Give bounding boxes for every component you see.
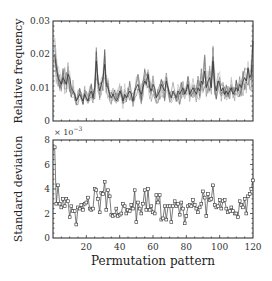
square-marker (57, 184, 60, 187)
square-marker (217, 205, 220, 208)
square-marker (237, 216, 240, 219)
square-marker (198, 206, 201, 209)
square-marker (132, 207, 135, 210)
square-marker (145, 208, 148, 211)
top-panel-relative-frequency: 00.010.020.03 (30, 16, 253, 126)
square-marker (235, 212, 238, 215)
plot-frame (53, 21, 253, 121)
square-marker (68, 216, 71, 219)
square-marker (78, 207, 81, 210)
square-marker (203, 196, 206, 199)
square-marker (195, 207, 198, 210)
square-marker (228, 210, 231, 213)
x-tick-label: 80 (181, 242, 193, 252)
square-marker (245, 212, 248, 215)
chart-figure: 00.010.020.03 0246820406080100120 Relati… (0, 0, 272, 281)
square-marker (185, 215, 188, 218)
square-marker (170, 221, 173, 224)
square-marker (135, 221, 138, 224)
square-marker (168, 205, 171, 208)
square-marker (182, 207, 185, 210)
x-tick-label: 120 (244, 242, 261, 252)
square-marker (123, 205, 126, 208)
square-marker (207, 193, 210, 196)
y-tick-label: 6 (44, 160, 50, 170)
square-marker (158, 194, 161, 197)
square-marker (115, 207, 118, 210)
square-marker (108, 195, 111, 198)
square-marker (230, 206, 233, 209)
square-marker (212, 184, 215, 187)
y-tick-label: 0.03 (30, 16, 50, 26)
square-marker (183, 222, 186, 225)
square-marker (178, 213, 181, 216)
square-marker (192, 199, 195, 202)
square-marker (193, 204, 196, 207)
square-marker (248, 193, 251, 196)
square-marker (243, 197, 246, 200)
bottom-y-axis-title: Standard deviation (12, 136, 25, 242)
square-marker (252, 179, 255, 182)
square-marker (147, 188, 150, 191)
square-marker (225, 207, 228, 210)
square-marker (120, 212, 123, 215)
square-marker (107, 189, 110, 192)
square-marker (60, 206, 63, 209)
square-marker (163, 205, 166, 208)
square-marker (70, 205, 73, 208)
square-marker (133, 189, 136, 192)
y-tick-label: 4 (44, 184, 50, 194)
square-marker (223, 199, 226, 202)
bottom-panel-standard-deviation: 0246820406080100120 (44, 135, 262, 252)
square-marker (80, 204, 83, 207)
square-marker (157, 201, 160, 204)
top-y-axis-title: Relative frequency (12, 18, 25, 124)
square-marker (220, 207, 223, 210)
y-tick-label: 0 (44, 116, 50, 126)
square-marker (95, 189, 98, 192)
square-marker (98, 211, 101, 214)
x-tick-label: 20 (81, 242, 93, 252)
x-tick-label: 60 (147, 242, 159, 252)
square-marker (73, 210, 76, 213)
square-marker (105, 208, 108, 211)
square-marker (190, 205, 193, 208)
square-marker (62, 197, 65, 200)
y-tick-label: 2 (44, 209, 50, 219)
square-marker (102, 193, 105, 196)
x-tick-label: 40 (114, 242, 126, 252)
x-axis-title: Permutation pattern (91, 254, 215, 268)
square-marker (197, 211, 200, 214)
square-marker (53, 146, 56, 149)
square-marker (172, 205, 175, 208)
square-marker (103, 180, 106, 183)
square-marker (210, 197, 213, 200)
square-marker (165, 218, 168, 221)
frequency-trace (55, 38, 253, 109)
square-marker (153, 212, 156, 215)
square-marker (242, 206, 245, 209)
square-marker (155, 194, 158, 197)
square-marker (63, 205, 66, 208)
plot-frame (53, 140, 253, 238)
square-marker (200, 202, 203, 205)
square-marker (87, 196, 90, 199)
y-tick-label: 0.02 (30, 49, 50, 59)
square-marker (218, 199, 221, 202)
y-tick-label: 8 (44, 135, 50, 145)
square-marker (238, 200, 241, 203)
square-marker (138, 207, 141, 210)
x-tick-label: 100 (211, 242, 228, 252)
square-marker (205, 215, 208, 218)
square-marker (250, 188, 253, 191)
y-tick-label: 0.01 (30, 83, 50, 93)
square-marker (75, 223, 78, 226)
square-marker (82, 208, 85, 211)
square-marker (137, 201, 140, 204)
square-marker (173, 200, 176, 203)
square-marker (148, 208, 151, 211)
square-marker (113, 213, 116, 216)
square-marker (162, 217, 165, 220)
y-multiplier-label: × 10−3 (54, 125, 82, 137)
square-marker (92, 207, 95, 210)
